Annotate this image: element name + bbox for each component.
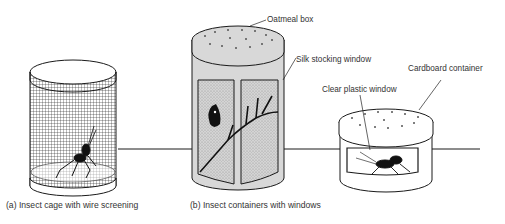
label-oatmeal-box: Oatmeal box [267, 15, 313, 24]
label-plastic-window: Clear plastic window [322, 85, 397, 94]
caption-b: (b) Insect containers with windows [190, 200, 321, 210]
oatmeal-box-illustration [192, 26, 284, 190]
wire-cage-illustration [30, 60, 116, 196]
cardboard-container-illustration [339, 109, 433, 192]
caption-a: (a) Insect cage with wire screening [6, 200, 138, 210]
label-cardboard-container: Cardboard container [408, 64, 483, 73]
diagram-artwork [0, 0, 505, 224]
label-silk-window: Silk stocking window [296, 55, 371, 64]
